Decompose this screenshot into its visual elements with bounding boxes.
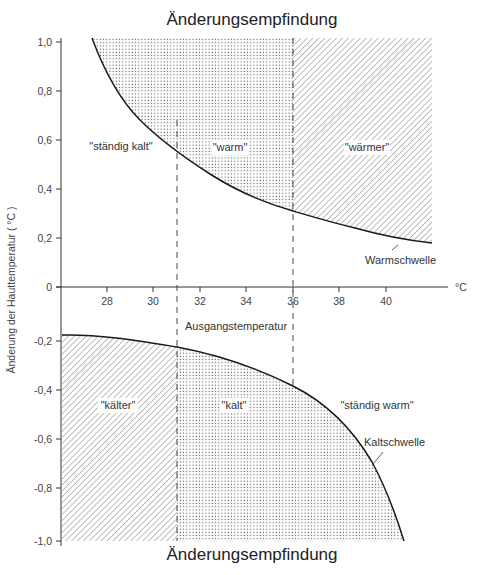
chart-title-top: Änderungsempfindung [166,10,337,29]
region-label-staendig-kalt: "ständig kalt" [89,140,153,152]
svg-text:34: 34 [240,295,252,307]
svg-text:0,6: 0,6 [37,134,52,146]
svg-text:0,4: 0,4 [37,183,52,195]
region-warm-fill [92,38,293,211]
svg-text:30: 30 [147,295,159,307]
svg-text:32: 32 [194,295,206,307]
svg-text:0,2: 0,2 [37,232,52,244]
region-label-staendig-warm: "ständig warm" [340,399,413,411]
region-kaelter-fill [62,335,177,541]
region-label-waermer: "wärmer" [345,141,390,153]
svg-text:-0,8: -0,8 [34,482,52,494]
region-label-warm: "warm" [213,141,248,153]
cold-threshold-leader [373,452,383,464]
svg-text:1,0: 1,0 [37,36,52,48]
x-tick-labels: 28 30 32 34 36 38 40 [101,295,392,307]
region-label-kaelter: "kälter" [101,399,136,411]
svg-text:-0,2: -0,2 [34,335,52,347]
svg-text:0: 0 [46,281,52,293]
threshold-chart: Änderungsempfindung Änderungsempfindung … [0,0,477,575]
y-tick-labels: 1,0 0,8 0,6 0,4 0,2 0 -0,2 -0,4 -0,6 -0,… [34,36,52,547]
warm-threshold-label: Warmschwelle [365,254,436,266]
cold-threshold-label: Kaltschwelle [364,436,425,448]
warm-threshold-leader [392,245,398,250]
x-axis-title: Ausgangstemperatur [185,320,287,332]
svg-text:40: 40 [380,295,392,307]
y-ticks [56,42,61,541]
x-ticks [107,287,386,292]
svg-text:-0,4: -0,4 [34,384,52,396]
svg-text:0,8: 0,8 [37,85,52,97]
svg-text:-1,0: -1,0 [34,535,52,547]
y-axis-title: Änderung der Hauttemperatur ( °C ) [5,206,17,373]
svg-text:-0,6: -0,6 [34,433,52,445]
x-unit-label: °C [455,281,467,293]
svg-text:38: 38 [333,295,345,307]
svg-text:28: 28 [101,295,113,307]
region-label-kalt: "kalt" [222,399,247,411]
svg-text:36: 36 [287,295,299,307]
chart-title-bottom: Änderungsempfindung [166,545,337,564]
